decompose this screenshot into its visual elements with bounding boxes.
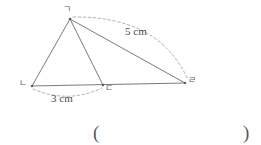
vertex-dot-apex	[69, 18, 72, 21]
vertex-label-base-left: ㄴ	[19, 79, 27, 88]
measurement-label-3cm: 3 cm	[51, 93, 73, 104]
vertex-label-base-right: ㄹ	[188, 76, 196, 85]
vertex-dot-group	[31, 18, 186, 88]
vertex-dot-base-left	[31, 85, 33, 87]
vertex-label-base-mid: ㄷ	[105, 84, 113, 93]
figure-canvas: ㄱ ㄴ ㄷ ㄹ 5 cm 3 cm ( )	[0, 0, 261, 145]
vertex-dot-base-mid	[102, 84, 104, 86]
measurement-label-5cm: 5 cm	[125, 26, 147, 37]
segment-apex-to-base-left	[32, 19, 70, 86]
segment-apex-to-base-mid	[70, 19, 103, 85]
answer-blank[interactable]	[104, 124, 242, 142]
vertex-dot-base-right	[184, 82, 186, 84]
solid-segment-group	[32, 19, 185, 86]
vertex-label-apex: ㄱ	[63, 5, 71, 14]
answer-open-paren: (	[93, 123, 99, 142]
answer-close-paren: )	[243, 123, 249, 142]
